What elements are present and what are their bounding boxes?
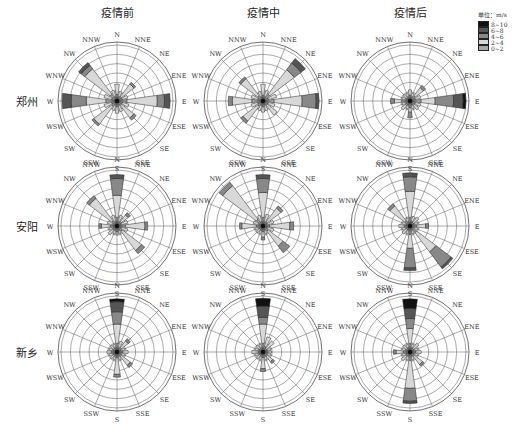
direction-label: NW: [356, 175, 369, 183]
direction-label: N: [407, 31, 413, 39]
direction-label: N: [260, 282, 266, 290]
direction-label: SE: [160, 270, 169, 278]
direction-label: SW: [357, 270, 368, 278]
direction-label: NE: [305, 175, 316, 183]
wind-rose-panel: NNNENEENEEESESESSESSSWSWWSWWWNWNWNNW: [192, 156, 333, 298]
direction-label: SW: [64, 270, 75, 278]
row-label-xinxiang: 新乡: [16, 344, 38, 360]
wind-rose-panel: NNNENEENEEESESESSESSSWSWWSWWWNWNWNNW: [192, 282, 333, 424]
direction-label: WNW: [192, 197, 211, 205]
direction-label: SW: [210, 270, 221, 278]
direction-label: NW: [63, 175, 76, 183]
direction-label: WNW: [339, 323, 358, 331]
direction-label: WNW: [46, 197, 65, 205]
wind-rose-panel: NNNENEENEEESESESSESSSWSWWSWWWNWNWNNW: [46, 282, 187, 424]
direction-label: SSW: [230, 410, 246, 418]
row-label-anyang: 安阳: [16, 218, 38, 234]
direction-label: WSW: [339, 374, 357, 382]
direction-label: SSE: [429, 410, 443, 418]
legend-swatch: [478, 45, 489, 51]
direction-label: NNE: [281, 161, 297, 169]
direction-label: ESE: [172, 248, 186, 256]
direction-label: NNW: [82, 161, 100, 169]
direction-label: E: [475, 349, 480, 357]
direction-label: NNE: [135, 161, 151, 169]
direction-label: NW: [209, 301, 222, 309]
direction-label: E: [328, 349, 333, 357]
direction-label: NNE: [428, 36, 444, 44]
wind-rose-panel: NNNENEENEEESESESSESSSWSWWSWWWNWNWNNW: [192, 31, 333, 173]
direction-label: WNW: [339, 197, 358, 205]
direction-label: W: [47, 349, 54, 357]
direction-label: WSW: [339, 248, 357, 256]
direction-label: N: [114, 156, 120, 164]
direction-label: NW: [356, 301, 369, 309]
direction-label: ESE: [465, 374, 479, 382]
direction-label: SW: [64, 145, 75, 153]
direction-label: WSW: [192, 248, 210, 256]
direction-label: NE: [159, 50, 170, 58]
direction-label: ESE: [465, 123, 479, 131]
direction-label: NNW: [375, 287, 393, 295]
direction-label: NE: [305, 50, 316, 58]
direction-label: NW: [209, 175, 222, 183]
direction-label: ESE: [318, 374, 332, 382]
direction-label: N: [260, 31, 266, 39]
direction-label: SSE: [136, 410, 150, 418]
direction-label: SE: [453, 145, 462, 153]
legend-unit: 单位：m/s: [478, 10, 507, 19]
direction-label: E: [182, 223, 187, 231]
direction-label: NNW: [82, 36, 100, 44]
direction-label: S: [261, 416, 265, 424]
direction-label: ENE: [464, 323, 479, 331]
direction-label: ENE: [317, 197, 332, 205]
direction-label: W: [193, 98, 200, 106]
direction-label: SW: [357, 396, 368, 404]
direction-label: SE: [306, 396, 315, 404]
direction-label: NNE: [281, 287, 297, 295]
direction-label: WSW: [192, 374, 210, 382]
wind-rose-panel: NNNENEENEEESESESSESSSWSWWSWWWNWNWNNW: [46, 31, 187, 173]
direction-label: NE: [452, 175, 463, 183]
direction-label: E: [328, 98, 333, 106]
direction-label: N: [114, 31, 120, 39]
column-title-before: 疫情前: [101, 4, 134, 20]
direction-label: S: [408, 416, 412, 424]
direction-label: N: [260, 156, 266, 164]
legend: 单位：m/s 8~10 6~8 4~6 2~4 0~2: [478, 10, 507, 51]
direction-label: S: [115, 416, 119, 424]
direction-label: NE: [159, 175, 170, 183]
direction-label: SE: [306, 270, 315, 278]
wind-rose-panel: NNNENEENEEESESESSESSSWSWWSWWWNWNWNNW: [339, 282, 480, 424]
direction-label: ESE: [318, 123, 332, 131]
direction-label: N: [114, 282, 120, 290]
direction-label: E: [182, 349, 187, 357]
direction-label: ENE: [171, 197, 186, 205]
direction-label: NNW: [375, 161, 393, 169]
direction-label: SSE: [282, 410, 296, 418]
direction-label: WNW: [192, 323, 211, 331]
direction-label: NNE: [428, 161, 444, 169]
direction-label: SE: [453, 270, 462, 278]
direction-label: ENE: [317, 72, 332, 80]
direction-label: SW: [64, 396, 75, 404]
direction-label: E: [182, 98, 187, 106]
direction-label: NE: [159, 301, 170, 309]
direction-label: NNE: [281, 36, 297, 44]
direction-label: NNE: [135, 287, 151, 295]
direction-label: N: [407, 282, 413, 290]
direction-label: SW: [210, 396, 221, 404]
direction-label: ESE: [172, 123, 186, 131]
direction-label: W: [47, 223, 54, 231]
direction-label: ENE: [171, 323, 186, 331]
direction-label: SSW: [377, 410, 393, 418]
direction-label: WNW: [46, 72, 65, 80]
direction-label: NNE: [428, 287, 444, 295]
direction-label: NNW: [228, 287, 246, 295]
direction-label: ESE: [172, 374, 186, 382]
row-label-zhengzhou: 郑州: [16, 93, 38, 109]
direction-label: SE: [453, 396, 462, 404]
direction-label: SE: [306, 145, 315, 153]
direction-label: E: [475, 98, 480, 106]
direction-label: ESE: [318, 248, 332, 256]
